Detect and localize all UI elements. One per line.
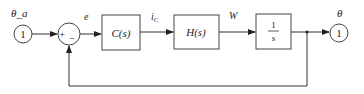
plant-block: H(s) bbox=[174, 15, 219, 49]
plus-sign: + bbox=[59, 29, 65, 40]
integrator-block: 1 s bbox=[256, 14, 291, 49]
error-signal-label: e bbox=[84, 11, 89, 22]
output-sink: θ 1 bbox=[330, 7, 348, 42]
input-value: 1 bbox=[20, 28, 26, 40]
input-source: θ_a 1 bbox=[11, 7, 32, 43]
output-label: θ bbox=[337, 7, 343, 19]
integrator-denominator: s bbox=[272, 33, 276, 43]
input-label: θ_a bbox=[11, 7, 28, 19]
block-diagram: θ_a 1 + − e C(s) iC H(s) W 1 s θ 1 bbox=[0, 0, 364, 94]
integrator-numerator: 1 bbox=[271, 20, 276, 30]
controller-block: C(s) bbox=[102, 15, 140, 50]
controller-label: C(s) bbox=[112, 27, 131, 40]
output-value: 1 bbox=[336, 27, 342, 39]
controller-output-sub: C bbox=[154, 16, 159, 24]
minus-sign: − bbox=[69, 33, 75, 44]
plant-output-label: W bbox=[229, 10, 239, 21]
sum-junction: + − bbox=[58, 23, 80, 45]
plant-label: H(s) bbox=[185, 26, 206, 39]
controller-output-label: iC bbox=[151, 11, 159, 24]
